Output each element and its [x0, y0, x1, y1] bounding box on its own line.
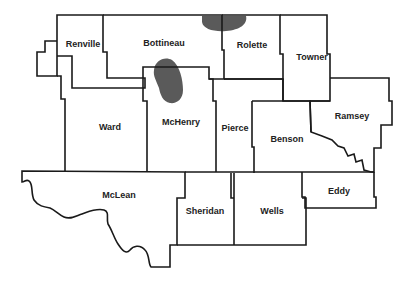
label-pierce: Pierce: [221, 123, 248, 133]
shaded-area-north: [202, 16, 246, 31]
label-towner: Towner: [296, 52, 328, 62]
county-ward: [57, 76, 65, 172]
label-mclean: McLean: [102, 190, 136, 200]
county-renville: [37, 15, 145, 88]
label-sheridan: Sheridan: [186, 206, 225, 216]
label-rolette: Rolette: [237, 40, 268, 50]
shaded-area-central: [154, 58, 183, 103]
label-benson: Benson: [270, 134, 303, 144]
county-map: Renville Bottineau Rolette Towner Ward M…: [0, 0, 411, 286]
label-ward: Ward: [99, 122, 121, 132]
label-renville: Renville: [66, 39, 101, 49]
label-bottineau: Bottineau: [143, 38, 185, 48]
label-ramsey: Ramsey: [335, 111, 370, 121]
county-benson: [252, 101, 311, 132]
label-mchenry: McHenry: [162, 117, 200, 127]
label-eddy: Eddy: [328, 186, 350, 196]
county-mclean: [22, 171, 185, 267]
county-ramsey: [310, 78, 392, 172]
label-wells: Wells: [260, 206, 283, 216]
